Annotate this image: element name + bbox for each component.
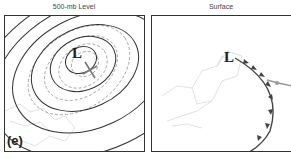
low-pressure-label-surface: L: [224, 49, 234, 66]
contour-map: [5, 16, 145, 152]
panel-surface: L: [151, 15, 291, 152]
panel-500mb: L (e): [4, 15, 145, 152]
panel-title-500mb: 500-mb Level: [4, 3, 144, 10]
panel-label: (e): [7, 133, 23, 148]
surface-map: [152, 16, 291, 152]
low-pressure-label: L: [72, 45, 82, 62]
panel-title-surface: Surface: [151, 3, 291, 10]
cold-front: [235, 58, 273, 152]
